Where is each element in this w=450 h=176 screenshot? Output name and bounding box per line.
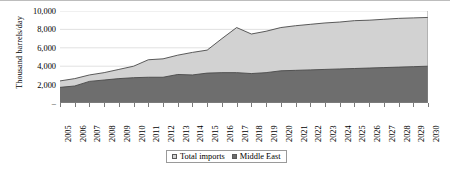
plot-area [60,11,428,103]
x-tick-mark [60,103,61,107]
x-tick-mark [354,103,355,107]
x-tick-mark [281,103,282,107]
x-tick-mark [75,103,76,107]
x-tick-mark [104,103,105,107]
legend-label: Middle East [240,152,281,161]
x-tick-label: 2013 [182,108,191,142]
x-tick-mark [369,103,370,107]
y-tick-label: 4,000 [0,62,56,71]
chart-legend: Total importsMiddle East [166,150,287,163]
y-tick-label: 2,000 [0,80,56,89]
legend-entry: Middle East [232,152,281,161]
x-tick-mark [399,103,400,107]
x-tick-mark [178,103,179,107]
x-tick-mark [251,103,252,107]
x-tick-label: 2025 [358,108,367,142]
x-tick-mark [163,103,164,107]
x-tick-label: 2007 [93,108,102,142]
x-tick-label: 2023 [329,108,338,142]
x-tick-label: 2009 [123,108,132,142]
x-tick-label: 2010 [138,108,147,142]
x-tick-mark [413,103,414,107]
x-tick-label: 2019 [270,108,279,142]
x-tick-label: 2011 [152,108,161,142]
x-tick-label: 2024 [344,108,353,142]
x-tick-label: 2016 [226,108,235,142]
x-tick-mark [237,103,238,107]
x-tick-label: 2020 [285,108,294,142]
y-tick-label: 10,000 [0,7,56,16]
x-tick-mark [148,103,149,107]
x-tick-label: 2022 [314,108,323,142]
x-tick-label: 2006 [79,108,88,142]
x-tick-label: 2026 [373,108,382,142]
area-chart-figure: Thousand barrels/day 10,0008,0006,0004,0… [0,0,450,176]
x-tick-label: 2008 [108,108,117,142]
x-axis-tick-labels: 2005200620072008200920102011201220132014… [60,108,428,144]
x-tick-label: 2030 [432,108,441,142]
x-tick-mark [134,103,135,107]
legend-swatch-icon [172,154,177,159]
x-tick-label: 2018 [255,108,264,142]
x-tick-mark [222,103,223,107]
x-tick-label: 2027 [388,108,397,142]
x-tick-mark [340,103,341,107]
figure-top-border [0,0,450,1]
x-tick-mark [207,103,208,107]
x-tick-label: 2005 [64,108,73,142]
x-tick-label: 2015 [211,108,220,142]
x-tick-label: 2017 [241,108,250,142]
x-tick-mark [266,103,267,107]
x-tick-label: 2028 [403,108,412,142]
stacked-area-plot [60,11,428,103]
x-tick-mark [192,103,193,107]
y-axis-tick-labels: 10,0008,0006,0004,0002,000– [0,0,56,176]
y-tick-label: – [0,99,56,108]
x-tick-label: 2012 [167,108,176,142]
legend-label: Total imports [180,152,225,161]
x-tick-mark [296,103,297,107]
x-tick-label: 2014 [196,108,205,142]
x-tick-mark [325,103,326,107]
legend-entry: Total imports [172,152,225,161]
y-tick-label: 6,000 [0,43,56,52]
y-tick-label: 8,000 [0,25,56,34]
x-tick-mark [428,103,429,107]
x-tick-mark [89,103,90,107]
x-tick-mark [119,103,120,107]
x-tick-mark [384,103,385,107]
x-tick-mark [310,103,311,107]
x-tick-label: 2021 [300,108,309,142]
legend-swatch-icon [232,154,237,159]
x-tick-label: 2029 [417,108,426,142]
